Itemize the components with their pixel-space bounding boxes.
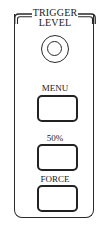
rotary-knob-icon — [47, 41, 62, 56]
menu-button[interactable] — [37, 95, 78, 122]
menu-button-label: MENU — [0, 83, 110, 93]
fifty-percent-button[interactable] — [37, 144, 78, 171]
trigger-level-knob[interactable] — [41, 35, 69, 63]
force-button-label: FORCE — [0, 174, 110, 184]
force-button[interactable] — [37, 185, 78, 212]
level-title: LEVEL — [0, 18, 110, 28]
fifty-percent-button-label: 50% — [0, 133, 110, 143]
